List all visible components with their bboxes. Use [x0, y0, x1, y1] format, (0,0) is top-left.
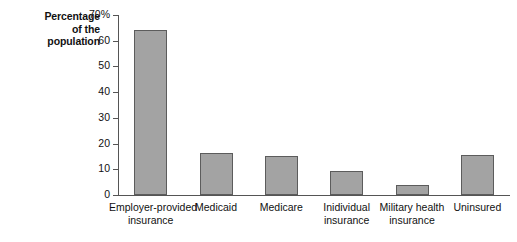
y-tick-label: 30	[98, 111, 110, 124]
bar-4	[396, 185, 429, 195]
y-tick-label: 70%	[89, 8, 110, 21]
y-tick-mark	[113, 169, 118, 170]
y-tick-mark	[113, 41, 118, 42]
y-axis-title-line-2: of the	[8, 23, 100, 36]
y-tick-label: 40	[98, 85, 110, 98]
x-tick-label-line: Uninsured	[436, 201, 517, 214]
y-axis-title-line-1: Percentage	[8, 10, 100, 23]
y-tick-mark	[113, 144, 118, 145]
y-axis-line	[118, 15, 119, 195]
y-tick-label: 50	[98, 59, 110, 72]
bar-3	[330, 171, 363, 195]
y-axis-title-line-3: population	[8, 35, 100, 48]
y-tick-label: 60	[98, 34, 110, 47]
y-tick-mark	[113, 66, 118, 67]
bar-0	[134, 30, 167, 195]
y-tick-label: 20	[98, 137, 110, 150]
x-axis-line	[118, 195, 510, 196]
y-tick-label: 0	[104, 188, 110, 201]
plot-area: 010203040506070% Employer-providedinsura…	[118, 15, 510, 195]
x-tick-label-line: insurance	[109, 214, 192, 227]
y-tick-label: 10	[98, 162, 110, 175]
y-tick-mark	[113, 195, 118, 196]
y-axis-title: Percentage of the population	[8, 10, 100, 48]
y-tick-mark	[113, 15, 118, 16]
y-tick-mark	[113, 92, 118, 93]
bar-2	[265, 156, 298, 195]
y-tick-mark	[113, 118, 118, 119]
bar-chart-figure: Percentage of the population 01020304050…	[0, 0, 517, 242]
bar-1	[200, 153, 233, 195]
x-tick-label-5: Uninsured	[436, 201, 517, 214]
x-tick-label-line: insurance	[370, 214, 453, 227]
bar-5	[461, 155, 494, 195]
